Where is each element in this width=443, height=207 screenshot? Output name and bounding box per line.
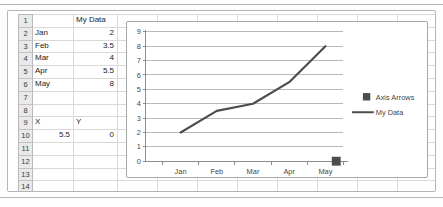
- row-header-1[interactable]: 1: [19, 15, 33, 28]
- cell-B9[interactable]: Y: [73, 116, 117, 129]
- legend-label-my-data[interactable]: My Data: [376, 108, 404, 117]
- row-header-10[interactable]: 10: [19, 130, 33, 143]
- y-tick-label: 5: [137, 85, 141, 94]
- row-header-14[interactable]: 14: [19, 181, 33, 192]
- y-tick-label: 4: [137, 99, 141, 108]
- x-tick-label: Apr: [283, 167, 295, 176]
- y-tick-label: 7: [137, 56, 141, 65]
- cell-A4[interactable]: Mar: [32, 52, 73, 65]
- cell-B6[interactable]: 8: [73, 78, 117, 91]
- cell-A5[interactable]: Apr: [32, 65, 73, 78]
- cell-B2[interactable]: 2: [73, 27, 117, 40]
- cell-B1[interactable]: My Data: [73, 14, 117, 27]
- cell-A6[interactable]: May: [32, 78, 73, 91]
- page-edge-bottom: [0, 197, 443, 198]
- y-tick-label: 2: [137, 128, 141, 137]
- sheet-row-gridline: [32, 180, 436, 181]
- worksheet-frame: 1234567891011121314 My DataJan2Feb3.5Mar…: [7, 10, 436, 192]
- page-edge-top: [0, 4, 443, 5]
- y-tick-label: 8: [137, 42, 141, 51]
- cell-A2[interactable]: Jan: [32, 27, 73, 40]
- y-tick-label: 9: [137, 27, 141, 36]
- row-header-6[interactable]: 6: [19, 79, 33, 92]
- row-header-3[interactable]: 3: [19, 41, 33, 54]
- y-tick-label: 6: [137, 71, 141, 80]
- y-tick-label: 0: [137, 157, 141, 166]
- x-tick-label: Jan: [175, 167, 187, 176]
- x-tick-label: May: [318, 167, 332, 176]
- row-header-12[interactable]: 12: [19, 156, 33, 169]
- cell-A10[interactable]: 5.5: [32, 129, 73, 142]
- x-tick-label: Feb: [210, 167, 223, 176]
- row-header-8[interactable]: 8: [19, 105, 33, 118]
- y-tick-label: 1: [137, 142, 141, 151]
- axis-arrows-marker[interactable]: [332, 157, 341, 166]
- x-tick-label: Mar: [247, 167, 260, 176]
- row-header-column: 1234567891011121314: [18, 14, 33, 191]
- cell-B3[interactable]: 3.5: [73, 40, 117, 53]
- row-header-4[interactable]: 4: [19, 53, 33, 66]
- cell-A3[interactable]: Feb: [32, 40, 73, 53]
- legend-label-axis-arrows[interactable]: Axis Arrows: [376, 93, 415, 102]
- legend-marker-axis-arrows[interactable]: [363, 93, 370, 100]
- row-header-2[interactable]: 2: [19, 28, 33, 41]
- chart-object[interactable]: 0123456789JanFebMarAprMayAxis ArrowsMy D…: [126, 21, 428, 178]
- row-header-13[interactable]: 13: [19, 169, 33, 182]
- row-header-11[interactable]: 11: [19, 143, 33, 156]
- y-tick-label: 3: [137, 114, 141, 123]
- cell-B4[interactable]: 4: [73, 52, 117, 65]
- cell-B10[interactable]: 0: [73, 129, 117, 142]
- row-header-7[interactable]: 7: [19, 92, 33, 105]
- row-header-9[interactable]: 9: [19, 117, 33, 130]
- cell-A9[interactable]: X: [32, 116, 73, 129]
- chart-svg: 0123456789JanFebMarAprMayAxis ArrowsMy D…: [127, 22, 427, 177]
- cell-B5[interactable]: 5.5: [73, 65, 117, 78]
- row-header-5[interactable]: 5: [19, 66, 33, 79]
